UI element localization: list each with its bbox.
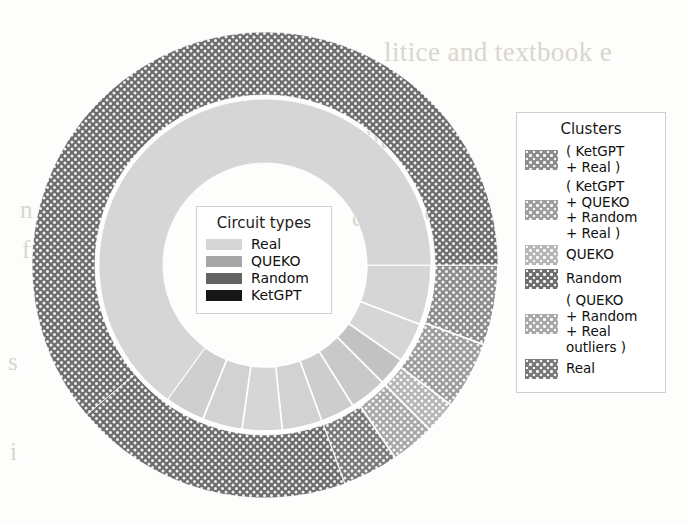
swatch-cluster-random bbox=[525, 269, 558, 289]
clusters-legend-title: Clusters bbox=[525, 120, 657, 138]
swatch-cluster-queko-random-real-outliers bbox=[525, 314, 558, 334]
cluster-item-random[interactable]: Random bbox=[525, 269, 657, 289]
legend-item-random[interactable]: Random bbox=[206, 271, 322, 286]
swatch-cluster-ketgpt-queko-random-real bbox=[525, 200, 558, 220]
swatch-cluster-ketgpt-real bbox=[525, 150, 558, 170]
legend-label-ketgpt: KetGPT bbox=[251, 288, 301, 303]
circuit-types-legend: Circuit types Real QUEKO Random KetGPT bbox=[196, 206, 332, 314]
cluster-label-random: Random bbox=[566, 271, 622, 287]
cluster-label-ketgpt-queko-random-real: ( KetGPT + QUEKO + Random + Real ) bbox=[566, 179, 638, 241]
swatch-random bbox=[206, 273, 242, 284]
legend-item-queko[interactable]: QUEKO bbox=[206, 254, 322, 269]
swatch-queko bbox=[206, 256, 242, 267]
legend-label-real: Real bbox=[251, 237, 281, 252]
cluster-item-ketgpt-real[interactable]: ( KetGPT + Real ) bbox=[525, 144, 657, 175]
sunburst-chart: Circuit types Real QUEKO Random KetGPT bbox=[0, 0, 520, 524]
cluster-label-real: Real bbox=[566, 361, 595, 377]
cluster-item-queko[interactable]: QUEKO bbox=[525, 245, 657, 265]
legend-label-random: Random bbox=[251, 271, 309, 286]
swatch-cluster-queko bbox=[525, 245, 558, 265]
cluster-label-queko-random-real-outliers: ( QUEKO + Random + Real outliers ) bbox=[566, 293, 638, 355]
legend-item-ketgpt[interactable]: KetGPT bbox=[206, 288, 322, 303]
circuit-types-legend-title: Circuit types bbox=[206, 214, 322, 232]
cluster-item-real[interactable]: Real bbox=[525, 359, 657, 379]
cluster-item-ketgpt-queko-random-real[interactable]: ( KetGPT + QUEKO + Random + Real ) bbox=[525, 179, 657, 241]
swatch-cluster-real bbox=[525, 359, 558, 379]
cluster-label-ketgpt-real: ( KetGPT + Real ) bbox=[566, 144, 624, 175]
swatch-ketgpt bbox=[206, 290, 242, 301]
swatch-real bbox=[206, 239, 242, 250]
cluster-item-queko-random-real-outliers[interactable]: ( QUEKO + Random + Real outliers ) bbox=[525, 293, 657, 355]
cluster-label-queko: QUEKO bbox=[566, 247, 614, 263]
clusters-legend: Clusters ( KetGPT + Real ) ( KetGPT + QU… bbox=[516, 112, 666, 393]
legend-item-real[interactable]: Real bbox=[206, 237, 322, 252]
legend-label-queko: QUEKO bbox=[251, 254, 301, 269]
